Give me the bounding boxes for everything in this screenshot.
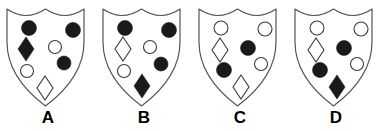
charge-circle-center <box>337 41 352 56</box>
shield-c[interactable]: C <box>192 0 288 131</box>
charge-circle-right-mid <box>154 57 168 71</box>
charge-circle-center <box>241 41 256 56</box>
charge-circle-lower-left <box>313 63 328 78</box>
charge-circle-top-right <box>162 23 177 38</box>
shield-d-label: D <box>288 108 384 128</box>
charge-circle-center <box>144 41 157 54</box>
charge-circle-right-mid <box>255 58 268 71</box>
charge-circle-lower-left <box>118 65 131 78</box>
charge-circle-right-mid <box>57 56 71 70</box>
shield-a[interactable]: A <box>0 0 96 131</box>
shield-b-graphic <box>96 2 188 110</box>
shield-a-label: A <box>0 108 96 128</box>
charge-circle-top-left <box>22 21 37 36</box>
charge-circle-top-left <box>310 21 324 35</box>
shield-b[interactable]: B <box>96 0 192 131</box>
charge-circle-top-right <box>66 23 81 38</box>
shield-d-graphic <box>288 2 380 110</box>
charge-circle-lower-left <box>217 63 232 78</box>
charge-circle-lower-left <box>21 65 34 78</box>
charge-circle-top-right <box>258 22 272 36</box>
shield-comparison-board: ABCD <box>0 0 385 131</box>
charge-circle-center <box>49 41 62 54</box>
shield-c-label: C <box>192 108 288 128</box>
charge-circle-top-left <box>118 21 133 36</box>
shield-d[interactable]: D <box>288 0 384 131</box>
shield-c-graphic <box>192 2 284 110</box>
charge-circle-top-left <box>214 21 228 35</box>
shield-a-graphic <box>0 2 92 110</box>
charge-circle-top-right <box>354 22 368 36</box>
shield-b-label: B <box>96 108 192 128</box>
charge-circle-right-mid <box>351 58 364 71</box>
